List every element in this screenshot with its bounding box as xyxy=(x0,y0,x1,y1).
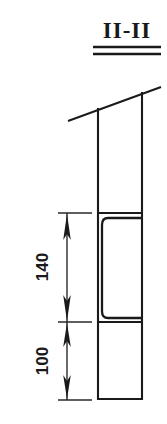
drawing-canvas: II-II xyxy=(0,0,167,424)
recess-group xyxy=(102,218,143,318)
sloped-roof-line xyxy=(68,87,161,121)
dimension-100-group: 100 xyxy=(33,322,92,400)
dimension-label-100: 100 xyxy=(33,347,52,375)
technical-drawing: II-II xyxy=(0,0,167,424)
section-title-group: II-II xyxy=(93,18,161,54)
recessed-opening-outline xyxy=(102,218,143,318)
sloped-roof-group xyxy=(68,87,161,121)
divider-group xyxy=(98,213,142,322)
dimension-label-140: 140 xyxy=(33,253,52,281)
dimension-140-group: 140 xyxy=(33,213,92,322)
section-title-label: II-II xyxy=(103,18,151,43)
column-group xyxy=(97,92,143,400)
